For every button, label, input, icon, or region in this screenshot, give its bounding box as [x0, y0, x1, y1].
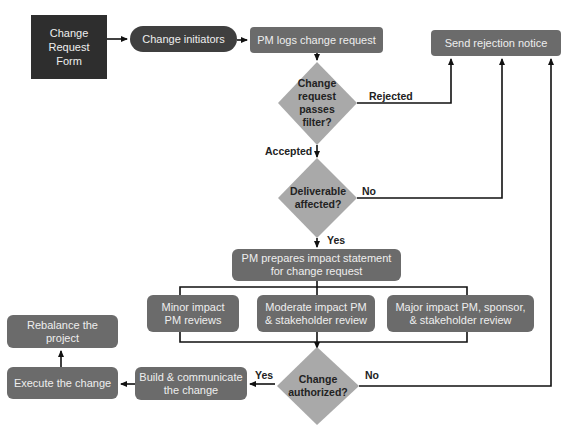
node-text-line: Minor impact [162, 301, 225, 314]
decision-text-line: Change [298, 77, 337, 90]
edge-label-no-authorized: No [365, 369, 379, 381]
decision-text-line: passes [299, 103, 335, 116]
send-rejection-notice-node: Send rejection notice [431, 30, 561, 56]
node-text-line: Request [49, 40, 90, 54]
flowchart-canvas: Change Request Form Change initiators PM… [0, 0, 571, 440]
decision-change-authorized: Change authorized? [280, 372, 356, 400]
node-text: Rebalance the project [11, 319, 114, 345]
edge-label-yes-authorized: Yes [255, 369, 273, 381]
decision-passes-filter: Change request passes filter? [282, 70, 352, 136]
decision-text-line: filter? [302, 116, 331, 129]
node-text-line: for change request [271, 265, 363, 278]
node-text: PM logs change request [257, 34, 376, 47]
node-text: Execute the change [14, 377, 111, 390]
decision-deliverable-affected: Deliverable affected? [280, 184, 356, 212]
decision-text-line: Change [299, 373, 338, 386]
node-text: Change initiators [142, 33, 225, 46]
decision-text-line: affected? [295, 198, 342, 211]
node-text-line: Build & communicate [139, 371, 242, 384]
decision-text-line: Deliverable [290, 185, 346, 198]
change-initiators-node: Change initiators [130, 26, 237, 52]
node-text-line: the change [164, 384, 218, 397]
node-text: Send rejection notice [445, 37, 548, 50]
decision-text-line: authorized? [288, 386, 348, 399]
moderate-impact-node: Moderate impact PM & stakeholder review [257, 295, 375, 332]
edge-label-yes-deliverable: Yes [327, 234, 345, 246]
node-text-line: & stakeholder review [265, 314, 367, 327]
execute-change-node: Execute the change [7, 367, 118, 399]
major-impact-node: Major impact PM, sponsor, & stakeholder … [387, 295, 534, 332]
node-text-line: & stakeholder review [409, 314, 511, 327]
edge-label-rejected: Rejected [369, 90, 413, 102]
edge-label-no-deliverable: No [362, 185, 376, 197]
minor-impact-node: Minor impact PM reviews [147, 295, 239, 332]
node-text-line: PM prepares impact statement [242, 252, 392, 265]
node-text-line: Change [50, 26, 89, 40]
change-request-form-node: Change Request Form [31, 15, 107, 79]
decision-text-line: request [298, 90, 336, 103]
build-communicate-node: Build & communicate the change [135, 367, 247, 400]
node-text-line: PM reviews [165, 314, 222, 327]
node-text-line: Form [56, 54, 82, 68]
pm-logs-change-request-node: PM logs change request [250, 27, 383, 53]
rebalance-project-node: Rebalance the project [7, 315, 118, 348]
node-text-line: Major impact PM, sponsor, [395, 301, 525, 314]
edge-label-accepted: Accepted [265, 145, 312, 157]
node-text-line: Moderate impact PM [265, 301, 366, 314]
pm-prepares-impact-statement-node: PM prepares impact statement for change … [232, 249, 401, 281]
